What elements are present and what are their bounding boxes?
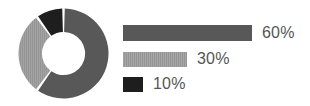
donut-chart-svg xyxy=(17,7,110,100)
donut-slice-30[interactable] xyxy=(19,18,51,89)
legend-item-10[interactable]: 10% xyxy=(123,74,186,94)
legend: 60% 30% 10% xyxy=(123,16,303,96)
donut-chart xyxy=(17,7,110,100)
legend-item-30[interactable]: 30% xyxy=(123,49,230,69)
legend-item-60[interactable]: 60% xyxy=(123,23,295,43)
legend-label-60: 60% xyxy=(262,25,295,41)
legend-label-30: 30% xyxy=(197,51,230,67)
legend-label-10: 10% xyxy=(153,76,186,92)
donut-chart-figure: 60% 30% 10% xyxy=(0,0,310,106)
legend-swatch-10 xyxy=(123,77,143,92)
legend-swatch-30 xyxy=(123,52,187,67)
legend-swatch-60 xyxy=(123,25,252,41)
